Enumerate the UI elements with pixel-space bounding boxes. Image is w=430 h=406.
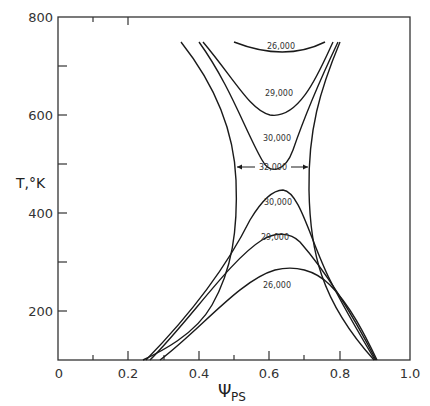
curve-labels: 26,000 29,000 30,000 32,000 30,000 29,00… xyxy=(259,42,295,290)
svg-text:0: 0 xyxy=(55,366,63,381)
svg-text:29,000: 29,000 xyxy=(265,89,293,98)
svg-text:400: 400 xyxy=(28,206,53,221)
svg-text:800: 800 xyxy=(28,10,53,25)
svg-text:Ψ: Ψ xyxy=(218,381,231,401)
y-axis-title: T,°K xyxy=(15,175,46,191)
plot-frame xyxy=(58,17,410,360)
svg-text:26,000: 26,000 xyxy=(267,42,295,51)
svg-text:32,000: 32,000 xyxy=(259,163,287,172)
curve-32000-right xyxy=(309,42,374,360)
svg-text:26,000: 26,000 xyxy=(263,281,291,290)
chart: 0 0.2 0.4 0.6 0.8 1.0 200 400 600 800 T,… xyxy=(0,0,430,406)
y-tick-labels: 200 400 600 800 xyxy=(28,10,53,319)
svg-text:0.8: 0.8 xyxy=(330,366,351,381)
x-tick-labels: 0 0.2 0.4 0.6 0.8 1.0 xyxy=(55,366,420,381)
curve-29000-lower xyxy=(150,234,376,360)
curves xyxy=(143,42,377,360)
svg-text:1.0: 1.0 xyxy=(400,366,421,381)
svg-text:0.6: 0.6 xyxy=(259,366,280,381)
svg-text:0.4: 0.4 xyxy=(189,366,210,381)
svg-text:600: 600 xyxy=(28,108,53,123)
svg-text:PS: PS xyxy=(231,390,246,404)
y-ticks xyxy=(58,66,67,311)
svg-text:30,000: 30,000 xyxy=(263,134,291,143)
svg-text:29,000: 29,000 xyxy=(261,233,289,242)
svg-text:200: 200 xyxy=(28,304,53,319)
x-axis-title: Ψ PS xyxy=(218,381,246,404)
svg-text:0.2: 0.2 xyxy=(118,366,139,381)
curve-30000-lower xyxy=(146,190,375,360)
svg-text:30,000: 30,000 xyxy=(264,198,292,207)
